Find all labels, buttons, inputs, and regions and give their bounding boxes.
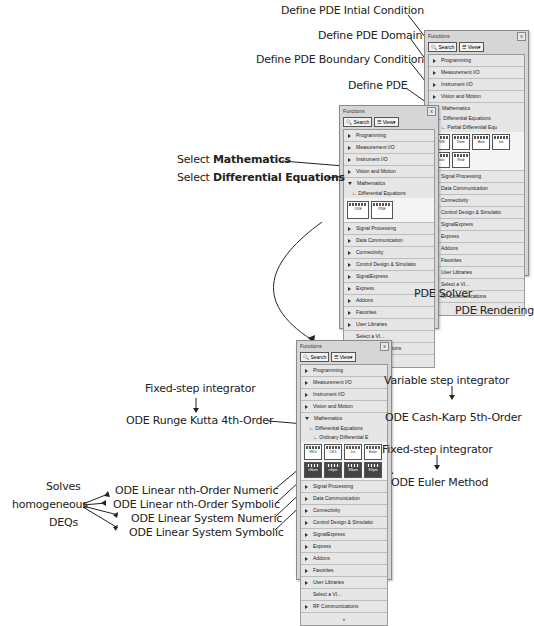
label-homogeneous: homogeneous bbox=[12, 498, 88, 511]
subcategory-ordinary-differential[interactable]: ∟ Ordinary Differential E bbox=[301, 433, 387, 442]
label-ode-linear-system-symbolic: ODE Linear System Symbolic bbox=[129, 526, 284, 539]
category-instrument-io[interactable]: Instrument I/O bbox=[344, 154, 434, 166]
expand-icon bbox=[433, 83, 436, 87]
category-signal-processing[interactable]: Signal Processing bbox=[301, 481, 387, 493]
ode-linear-nth-numeric-vi-icon[interactable]: nNum bbox=[304, 462, 322, 478]
subcategory-differential-equations[interactable]: ∟ Differential Equations bbox=[301, 424, 387, 433]
expand-icon bbox=[305, 369, 308, 373]
search-button[interactable]: 🔍 Search bbox=[343, 117, 372, 127]
expand-icon bbox=[348, 134, 351, 138]
ode-subpalette-icon[interactable]: ODE bbox=[347, 201, 369, 219]
category-mathematics[interactable]: Mathematics bbox=[301, 413, 387, 424]
pde-subpalette-icon[interactable]: PDE bbox=[371, 201, 393, 219]
expand-icon bbox=[305, 557, 308, 561]
label-ode-cash-karp: ODE Cash-Karp 5th-Order bbox=[385, 411, 522, 424]
category-signal-processing[interactable]: Signal Processing bbox=[429, 171, 524, 183]
category-connectivity[interactable]: Connectivity bbox=[301, 505, 387, 517]
expand-icon bbox=[348, 251, 351, 255]
ode-euler-vi-icon[interactable]: Euler bbox=[364, 444, 382, 460]
category-control-design[interactable]: Control Design & Simulatio bbox=[301, 517, 387, 529]
category-instrument-io[interactable]: Instrument I/O bbox=[301, 389, 387, 401]
category-signal-processing[interactable]: Signal Processing bbox=[344, 223, 434, 235]
label-pde-initial-condition: Define PDE Intial Condition bbox=[281, 4, 424, 17]
category-vision-motion[interactable]: Vision and Motion bbox=[344, 166, 434, 178]
view-button[interactable]: ☰ View▾ bbox=[331, 352, 356, 362]
category-instrument-io[interactable]: Instrument I/O bbox=[429, 79, 524, 91]
label-pde-solver: PDE Solver bbox=[414, 287, 472, 300]
expand-icon bbox=[348, 239, 351, 243]
view-button[interactable]: ☰ View▾ bbox=[459, 42, 484, 52]
subcategory-partial-differential[interactable]: ∟ Partial Differential Equ bbox=[429, 123, 524, 132]
category-measurement-io[interactable]: Measurement I/O bbox=[301, 377, 387, 389]
category-express[interactable]: Express bbox=[301, 541, 387, 553]
pde-rendering-vi-icon[interactable]: Rndr bbox=[452, 152, 470, 168]
ode-linear-nth-symbolic-vi-icon[interactable]: nSym bbox=[324, 462, 342, 478]
ode-cash-karp-vi-icon[interactable]: CK5 bbox=[324, 444, 342, 460]
view-button[interactable]: ☰ View▾ bbox=[374, 117, 399, 127]
expand-icon bbox=[305, 545, 308, 549]
ode-linear-system-symbolic-vi-icon[interactable]: SSym bbox=[364, 462, 382, 478]
category-favorites[interactable]: Favorites bbox=[301, 565, 387, 577]
expand-icon bbox=[348, 275, 351, 279]
category-signalexpress[interactable]: SignalExpress bbox=[429, 219, 524, 231]
expand-icon bbox=[305, 381, 308, 385]
label-pde-boundary-condition: Define PDE Boundary Condition bbox=[256, 53, 424, 66]
category-addons[interactable]: Addons bbox=[429, 243, 524, 255]
category-programming[interactable]: Programming bbox=[429, 55, 524, 67]
category-connectivity[interactable]: Connectivity bbox=[429, 195, 524, 207]
expand-icon bbox=[348, 227, 351, 231]
category-vision-motion[interactable]: Vision and Motion bbox=[429, 91, 524, 103]
category-user-libraries[interactable]: User Libraries bbox=[344, 319, 434, 331]
category-connectivity[interactable]: Connectivity bbox=[344, 247, 434, 259]
category-data-communication[interactable]: Data Communication bbox=[301, 493, 387, 505]
expand-icon bbox=[305, 521, 308, 525]
category-signalexpress[interactable]: SignalExpress bbox=[301, 529, 387, 541]
category-rf-communications[interactable]: RF Communications bbox=[301, 601, 387, 613]
ode-linear-vi-icon[interactable]: Lin bbox=[344, 444, 362, 460]
category-user-libraries[interactable]: User Libraries bbox=[301, 577, 387, 589]
expand-icon bbox=[348, 158, 351, 162]
label-select-mathematics: Select Mathematics bbox=[177, 153, 291, 166]
close-button[interactable]: x bbox=[517, 32, 526, 41]
category-user-libraries[interactable]: User Libraries bbox=[429, 267, 524, 279]
subcategory-differential-equations[interactable]: ∟ Differential Equations bbox=[344, 189, 434, 198]
ode-linear-system-numeric-vi-icon[interactable]: SNum bbox=[344, 462, 362, 478]
functions-palette-ode: Functionsx 🔍 Search ☰ View▾ Programming … bbox=[296, 340, 392, 580]
expand-icon bbox=[305, 569, 308, 573]
define-pde-domain-vi-icon[interactable]: Dom bbox=[452, 134, 470, 150]
label-variable-step-integrator: Variable step integrator bbox=[384, 374, 509, 387]
subcategory-differential-equations[interactable]: ∟ Differential Equations bbox=[429, 114, 524, 123]
category-programming[interactable]: Programming bbox=[344, 130, 434, 142]
expand-icon bbox=[348, 311, 351, 315]
close-button[interactable]: x bbox=[427, 107, 436, 116]
collapse-palette-button[interactable]: « bbox=[301, 613, 387, 625]
search-button[interactable]: 🔍 Search bbox=[428, 42, 457, 52]
define-pde-initial-vi-icon[interactable]: Init bbox=[492, 134, 510, 150]
category-favorites[interactable]: Favorites bbox=[429, 255, 524, 267]
category-express[interactable]: Express bbox=[429, 231, 524, 243]
close-button[interactable]: x bbox=[380, 342, 389, 351]
category-data-communication[interactable]: Data Communication bbox=[344, 235, 434, 247]
category-control-design[interactable]: Control Design & Simulatio bbox=[344, 259, 434, 271]
category-measurement-io[interactable]: Measurement I/O bbox=[429, 67, 524, 79]
category-mathematics[interactable]: Mathematics bbox=[429, 103, 524, 114]
category-favorites[interactable]: Favorites bbox=[344, 307, 434, 319]
label-ode-linear-system-numeric: ODE Linear System Numeric bbox=[131, 512, 282, 525]
search-button[interactable]: 🔍 Search bbox=[300, 352, 329, 362]
category-control-design[interactable]: Control Design & Simulatio bbox=[429, 207, 524, 219]
expand-icon bbox=[348, 263, 351, 267]
expand-icon bbox=[433, 59, 436, 63]
expand-icon bbox=[348, 170, 351, 174]
ode-runge-kutta-vi-icon[interactable]: RK4 bbox=[304, 444, 322, 460]
expand-icon bbox=[433, 71, 436, 75]
label-fixed-step-integrator: Fixed-step integrator bbox=[145, 382, 255, 395]
category-signalexpress[interactable]: SignalExpress bbox=[344, 271, 434, 283]
category-vision-motion[interactable]: Vision and Motion bbox=[301, 401, 387, 413]
category-addons[interactable]: Addons bbox=[301, 553, 387, 565]
category-measurement-io[interactable]: Measurement I/O bbox=[344, 142, 434, 154]
select-a-vi[interactable]: Select a VI... bbox=[301, 589, 387, 601]
category-mathematics[interactable]: Mathematics bbox=[344, 178, 434, 189]
category-data-communication[interactable]: Data Communication bbox=[429, 183, 524, 195]
category-programming[interactable]: Programming bbox=[301, 365, 387, 377]
define-pde-boundary-vi-icon[interactable]: Bnd bbox=[472, 134, 490, 150]
